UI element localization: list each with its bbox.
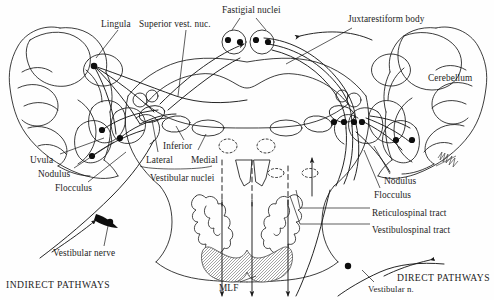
- label-superior-vestibular-nucleus: Superior vest. nuc.: [139, 20, 211, 29]
- label-fastigial-nuclei: Fastigial nuclei: [222, 6, 281, 15]
- cerebellum-right-lobules: [334, 54, 419, 163]
- artist-signature: [436, 152, 458, 167]
- label-vestibulospinal-tract: Vestibulospinal tract: [372, 226, 450, 235]
- label-medial: Medial: [191, 156, 218, 165]
- vestibular-ganglion-left: [94, 214, 118, 228]
- label-direct-pathways: DIRECT PATHWAYS: [397, 273, 490, 283]
- dashed-nuclei: [219, 139, 318, 178]
- label-nodulus-right: Nodulus: [384, 177, 416, 186]
- label-reticulospinal-tract: Reticulospinal tract: [372, 209, 447, 218]
- label-lateral: Lateral: [146, 156, 173, 165]
- label-inferior: Inferior: [163, 142, 192, 151]
- mlf-wedges: [236, 160, 270, 186]
- vestibular-nerve-fiber-left: [40, 140, 154, 258]
- pyramids-hatched: [201, 247, 292, 282]
- vestibular-nuclei-right: [270, 90, 361, 136]
- label-cerebellum: Cerebellum: [428, 74, 472, 83]
- label-flocculus-right: Flocculus: [374, 191, 411, 200]
- inferior-olive-left: [192, 195, 233, 253]
- label-mlf: MLF: [219, 284, 238, 293]
- label-nodulus-left: Nodulus: [38, 170, 70, 179]
- label-vestibular-nerve: Vestibular nerve: [53, 249, 115, 258]
- label-indirect-pathways: INDIRECT PATHWAYS: [6, 280, 110, 290]
- cerebellum-right-outline: [378, 27, 487, 178]
- label-vestibular-nerve-right: Vestibular n.: [368, 285, 414, 294]
- label-lingula: Lingula: [101, 20, 131, 29]
- label-juxtarestiform-body: Juxtarestiform body: [348, 15, 425, 24]
- vestibular-pathways-figure: Lingula Superior vest. nuc. Fastigial nu…: [0, 0, 494, 300]
- juxtarestiform-arc: [300, 32, 372, 40]
- label-vestibular-nuclei: Vestibular nuclei: [150, 174, 214, 183]
- label-flocculus-left: Flocculus: [55, 184, 92, 193]
- brainstem-outline: [125, 58, 369, 282]
- label-uvula: Uvula: [30, 156, 53, 165]
- inferior-olive-right: [261, 195, 302, 253]
- cerebellum-left-outline: [9, 27, 118, 178]
